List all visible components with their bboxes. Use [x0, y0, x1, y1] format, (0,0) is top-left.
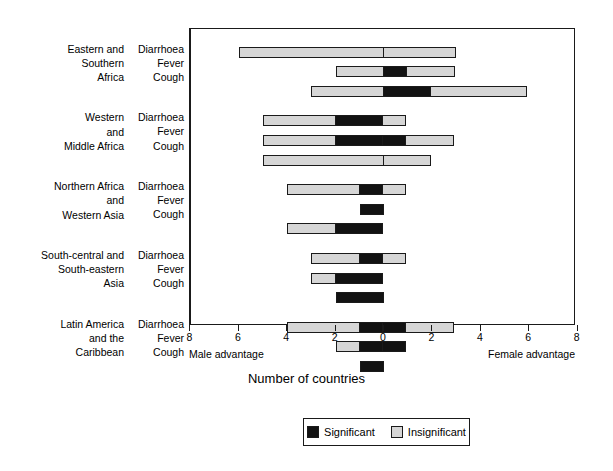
condition-label: Fever: [124, 124, 184, 138]
bar-segment-female-significant: [383, 86, 431, 97]
bar-row: [287, 223, 384, 234]
axis-tick-label: 2: [419, 331, 443, 343]
condition-label: Fever: [124, 262, 184, 276]
legend-swatch-significant: [307, 426, 319, 438]
condition-label-group: DiarrhoeaFeverCough: [124, 110, 184, 153]
bar-row: [287, 184, 408, 195]
x-axis-title: Number of countries: [0, 371, 613, 386]
bar-row: [336, 66, 457, 77]
region-label: South-central and South-eastern Asia: [0, 248, 124, 291]
bar-segment-male-significant: [335, 223, 383, 234]
condition-label: Diarrhoea: [124, 110, 184, 124]
chart-legend: Significant Insignificant: [303, 418, 470, 446]
condition-label-group: DiarrhoeaFeverCough: [124, 42, 184, 85]
bar-segment-male-insignificant: [311, 86, 384, 97]
axis-tick-label: 2: [323, 331, 347, 343]
bar-segment-male-significant: [335, 135, 383, 146]
condition-label: Diarrhoea: [124, 42, 184, 56]
bar-segment-male-insignificant: [239, 47, 384, 58]
axis-tick-label: 4: [468, 331, 492, 343]
condition-label: Fever: [124, 56, 184, 70]
bar-segment-male-insignificant: [263, 115, 336, 126]
bar-segment-male-insignificant: [287, 184, 360, 195]
condition-label: Cough: [124, 345, 184, 359]
axis-tick-label: 8: [177, 331, 201, 343]
bar-row: [263, 135, 457, 146]
region-label: Western and Middle Africa: [0, 110, 124, 153]
bar-segment-female-insignificant: [382, 253, 406, 264]
bar-row: [239, 47, 457, 58]
bar-row: [336, 292, 384, 303]
bar-row: [311, 273, 384, 284]
region-label: Eastern and Southern Africa: [0, 42, 124, 85]
bar-segment-male-insignificant: [263, 135, 336, 146]
bar-segment-female-insignificant: [383, 155, 431, 166]
female-advantage-note: Female advantage: [488, 348, 575, 360]
axis-tick-label: 8: [565, 331, 589, 343]
zero-axis-line: [190, 29, 191, 324]
condition-label-group: DiarrhoeaFeverCough: [124, 179, 184, 222]
bar-segment-male-insignificant: [311, 273, 335, 284]
condition-label: Cough: [124, 276, 184, 290]
bar-row: [311, 253, 408, 264]
plot-area: [189, 28, 575, 325]
legend-entry-significant: Significant: [307, 426, 375, 438]
bar-segment-male-significant: [360, 204, 384, 215]
axis-tick-label: 6: [516, 331, 540, 343]
bar-segment-female-insignificant: [406, 66, 454, 77]
condition-label-group: DiarrhoeaFeverCough: [124, 317, 184, 360]
condition-label: Cough: [124, 139, 184, 153]
bar-row: [311, 86, 529, 97]
condition-label: Fever: [124, 193, 184, 207]
condition-label: Diarrhoea: [124, 317, 184, 331]
bar-row: [263, 115, 408, 126]
male-advantage-note: Male advantage: [189, 348, 264, 360]
axis-tick-label: 4: [274, 331, 298, 343]
bar-segment-male-significant: [335, 273, 383, 284]
bar-segment-female-significant: [383, 66, 407, 77]
bar-segment-male-insignificant: [287, 223, 335, 234]
legend-label-significant: Significant: [324, 426, 375, 438]
bar-segment-male-significant: [359, 253, 383, 264]
bar-row: [263, 155, 432, 166]
condition-label: Fever: [124, 331, 184, 345]
axis-tick-label: 0: [371, 331, 395, 343]
bar-segment-female-insignificant: [405, 135, 453, 146]
bar-segment-male-significant: [335, 115, 383, 126]
condition-label: Cough: [124, 207, 184, 221]
bar-segment-male-significant: [359, 184, 383, 195]
bar-segment-male-significant: [336, 292, 384, 303]
bar-row: [360, 204, 384, 215]
bar-segment-female-significant: [382, 135, 406, 146]
bar-segment-female-insignificant: [430, 86, 527, 97]
legend-entry-insignificant: Insignificant: [391, 426, 466, 438]
legend-swatch-insignificant: [391, 426, 403, 438]
condition-label: Diarrhoea: [124, 179, 184, 193]
region-label: Northern Africa and Western Asia: [0, 179, 124, 222]
bar-segment-male-insignificant: [263, 155, 384, 166]
bar-segment-female-insignificant: [382, 115, 406, 126]
bar-segment-male-insignificant: [336, 66, 384, 77]
legend-label-insignificant: Insignificant: [408, 426, 466, 438]
condition-label: Cough: [124, 70, 184, 84]
region-label: Latin America and the Caribbean: [0, 317, 124, 360]
axis-tick-label: 6: [226, 331, 250, 343]
chart-container: Eastern and Southern AfricaDiarrhoeaFeve…: [0, 0, 613, 471]
bar-segment-male-insignificant: [311, 253, 359, 264]
bar-segment-female-insignificant: [382, 184, 406, 195]
condition-label-group: DiarrhoeaFeverCough: [124, 248, 184, 291]
bar-segment-female-insignificant: [383, 47, 456, 58]
condition-label: Diarrhoea: [124, 248, 184, 262]
